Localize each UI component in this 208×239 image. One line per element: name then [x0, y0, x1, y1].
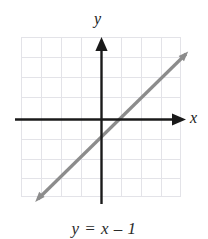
graph-figure: y x y = x – 1: [0, 0, 208, 239]
x-axis-label: x: [190, 110, 197, 126]
equation-caption: y = x – 1: [0, 219, 208, 239]
y-axis-label: y: [94, 11, 101, 27]
coordinate-plane: [0, 0, 208, 212]
coordinate-plane-svg: [0, 0, 208, 212]
